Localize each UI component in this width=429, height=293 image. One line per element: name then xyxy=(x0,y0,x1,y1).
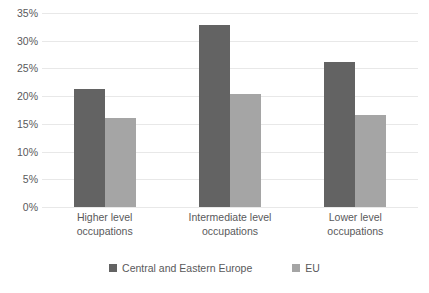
x-axis-category-label: Lower leveloccupations xyxy=(290,210,420,238)
y-axis-tick-label: 35% xyxy=(2,8,38,18)
bar xyxy=(74,89,105,207)
legend: Central and Eastern EuropeEU xyxy=(0,262,429,274)
y-axis-tick-label: 20% xyxy=(2,91,38,101)
bar xyxy=(324,62,355,207)
x-axis-category-label-line: Higher level xyxy=(40,210,170,224)
bar-group xyxy=(199,13,261,207)
bar xyxy=(230,94,261,207)
legend-item[interactable]: Central and Eastern Europe xyxy=(109,262,252,274)
y-axis: 0%5%10%15%20%25%30%35% xyxy=(0,0,38,293)
bar-group xyxy=(324,13,386,207)
legend-label: EU xyxy=(305,262,320,274)
bar-group xyxy=(74,13,136,207)
bars-layer xyxy=(42,13,418,207)
gridline xyxy=(42,207,418,208)
legend-swatch-icon xyxy=(109,264,117,272)
x-axis-category-labels: Higher leveloccupationsIntermediate leve… xyxy=(42,210,418,250)
x-axis-category-label-line: occupations xyxy=(165,224,295,238)
y-axis-tick-label: 25% xyxy=(2,63,38,73)
x-axis-category-label-line: occupations xyxy=(40,224,170,238)
x-axis-category-label: Higher leveloccupations xyxy=(40,210,170,238)
x-axis-category-label-line: occupations xyxy=(290,224,420,238)
y-axis-tick-label: 15% xyxy=(2,119,38,129)
y-axis-tick-label: 10% xyxy=(2,147,38,157)
x-axis-category-label-line: Lower level xyxy=(290,210,420,224)
legend-item[interactable]: EU xyxy=(292,262,320,274)
bar-chart: 0%5%10%15%20%25%30%35% Higher leveloccup… xyxy=(0,0,429,293)
y-axis-tick-label: 0% xyxy=(2,202,38,212)
plot-area xyxy=(42,13,418,207)
x-axis-category-label: Intermediate leveloccupations xyxy=(165,210,295,238)
y-axis-tick-label: 30% xyxy=(2,36,38,46)
bar xyxy=(105,118,136,207)
x-axis-category-label-line: Intermediate level xyxy=(165,210,295,224)
bar xyxy=(355,115,386,207)
y-axis-tick-label: 5% xyxy=(2,174,38,184)
legend-swatch-icon xyxy=(292,264,300,272)
legend-label: Central and Eastern Europe xyxy=(122,262,252,274)
bar xyxy=(199,25,230,207)
